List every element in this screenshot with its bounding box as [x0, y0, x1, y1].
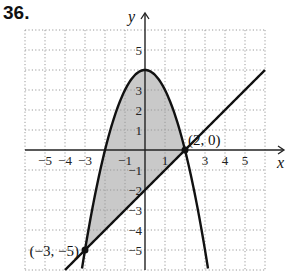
- y-tick-label: 2: [136, 103, 143, 118]
- point-label: (2, 0): [188, 132, 221, 149]
- y-tick-label: −1: [128, 163, 142, 178]
- x-tick-label: 1: [162, 153, 169, 168]
- x-tick-label: 3: [202, 153, 209, 168]
- y-tick-label: 3: [136, 83, 143, 98]
- y-tick-label: 5: [136, 43, 143, 58]
- x-tick-label: 5: [242, 153, 249, 168]
- point-label: (−3, −5): [30, 243, 79, 260]
- y-tick-label: 1: [136, 123, 143, 138]
- x-tick-label: −5: [38, 153, 52, 168]
- intersection-point: [82, 247, 89, 254]
- x-axis-label: x: [276, 154, 284, 171]
- x-tick-label: 4: [222, 153, 229, 168]
- y-axis-label: y: [126, 8, 136, 26]
- y-tick-label: −5: [128, 243, 142, 258]
- x-tick-label: −4: [58, 153, 72, 168]
- coordinate-plot: yx−5−4−3−113455321−1−2−3−4−5(2, 0)(−3, −…: [0, 0, 299, 275]
- graph-figure: 36. yx−5−4−3−113455321−1−2−3−4−5(2, 0)(−…: [0, 0, 299, 275]
- x-tick-label: −3: [78, 153, 92, 168]
- y-tick-label: −4: [128, 223, 142, 238]
